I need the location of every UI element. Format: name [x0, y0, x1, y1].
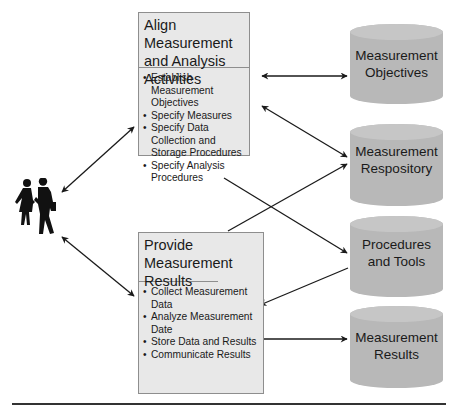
repository-label-line2: Respository	[350, 160, 443, 177]
list-item: Collect Measurement Data	[143, 286, 261, 311]
repository-label-line2: Results	[350, 346, 443, 363]
arrow-people-align	[62, 127, 134, 192]
repository-label-line2: and Tools	[350, 253, 443, 270]
repository-label-line1: Measurement	[350, 143, 443, 160]
repository-label-line2: Objectives	[350, 64, 443, 81]
repository-label-line1: Measurement	[350, 329, 443, 346]
align-activities-list: Establish Measurement Objectives Specify…	[139, 68, 249, 185]
repository-label-line1: Procedures	[350, 236, 443, 253]
arrow-align-repository	[262, 106, 347, 157]
people-icon	[14, 178, 62, 236]
repository-measurement-repository: Measurement Respository	[350, 124, 443, 206]
bottom-rule	[12, 403, 446, 405]
list-item: Specify Measures	[143, 110, 247, 123]
list-item: Communicate Results	[143, 349, 261, 362]
repository-measurement-objectives: Measurement Objectives	[350, 24, 443, 104]
align-activities-title: Align Measurement and Analysis Activitie…	[139, 13, 249, 68]
arrow-people-provide	[62, 237, 134, 296]
repository-procedures-and-tools: Procedures and Tools	[350, 216, 443, 297]
provide-results-list: Collect Measurement Data Analyze Measure…	[139, 282, 263, 361]
align-activities-box: Align Measurement and Analysis Activitie…	[138, 12, 250, 156]
list-item: Specify Analysis Procedures	[143, 160, 247, 185]
provide-results-title: Provide Measurement Results	[139, 233, 218, 282]
arrow-procedures-provide	[260, 268, 348, 305]
repository-measurement-results: Measurement Results	[350, 306, 443, 388]
repository-label-line1: Measurement	[350, 47, 443, 64]
list-item: Analyze Measurement Date	[143, 311, 261, 336]
list-item: Specify Data Collection and Storage Proc…	[143, 122, 247, 160]
list-item: Store Data and Results	[143, 336, 261, 349]
provide-results-box: Provide Measurement Results Collect Meas…	[138, 232, 264, 394]
